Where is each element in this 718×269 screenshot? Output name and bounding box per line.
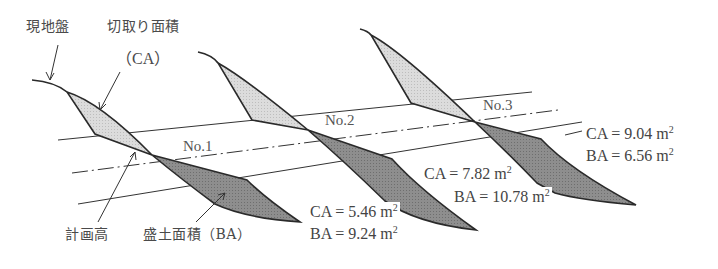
unit-exponent: 2: [669, 124, 674, 135]
unit-exponent: 2: [393, 224, 398, 235]
ba-text-no3: BA = 6.56 m: [586, 147, 669, 164]
unit-exponent: 2: [545, 187, 550, 198]
station-label-no2: No.2: [325, 112, 355, 129]
plan-height-label: 計画高: [65, 226, 109, 243]
ca-value-no2: CA = 7.82 m2: [422, 164, 514, 183]
cut-area-abbr: （CA）: [116, 50, 170, 67]
unit-exponent: 2: [669, 146, 674, 157]
ba-text-no1: BA = 9.24 m: [310, 225, 393, 242]
leader-plan-height: [98, 152, 135, 222]
leader-ca-no3: [565, 131, 582, 135]
ca-value-no3: CA = 9.04 m2: [584, 124, 676, 143]
ca-text-no1: CA = 5.46 m: [310, 203, 393, 220]
ground-label: 現地盤: [26, 18, 70, 35]
ca-value-no1: CA = 5.46 m2: [308, 202, 400, 221]
ba-text-no2: BA = 10.78 m: [454, 188, 545, 205]
ba-value-no1: BA = 9.24 m2: [308, 224, 400, 243]
ca-text-no3: CA = 9.04 m: [586, 125, 669, 142]
station-label-no3: No.3: [483, 97, 513, 114]
cut-area-no2: [218, 63, 308, 130]
ba-value-no3: BA = 6.56 m2: [584, 146, 676, 165]
ba-value-no2: BA = 10.78 m2: [452, 187, 552, 206]
leader-cut-area: [100, 72, 120, 110]
cut-area-label: 切取り面積: [107, 18, 180, 35]
ground-line-no1: [32, 80, 67, 92]
unit-exponent: 2: [393, 202, 398, 213]
leader-ground: [50, 45, 58, 80]
ground-line-no3: [360, 29, 371, 35]
ca-text-no2: CA = 7.82 m: [424, 165, 507, 182]
cut-area-no3: [371, 35, 475, 122]
unit-exponent: 2: [507, 164, 512, 175]
station-label-no1: No.1: [183, 138, 213, 155]
fill-area-label: 盛土面積（BA）: [143, 226, 251, 243]
ground-line-no2: [198, 52, 218, 63]
cut-area-no1: [67, 92, 152, 155]
